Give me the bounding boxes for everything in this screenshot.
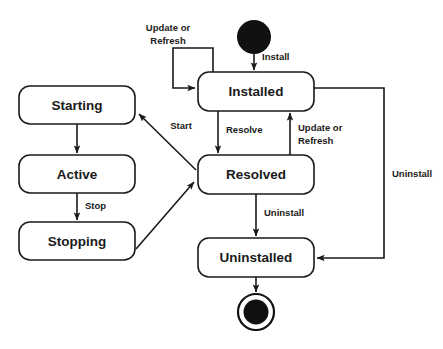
transition-uninstall-from-installed-line xyxy=(314,88,384,258)
state-installed[interactable]: Installed xyxy=(198,72,314,111)
state-active[interactable]: Active xyxy=(19,155,135,193)
transition-resolve: Resolve xyxy=(218,111,262,153)
final-state-node[interactable] xyxy=(238,294,274,330)
transition-uninstall-from-resolved: Uninstall xyxy=(256,194,304,236)
initial-state-node[interactable] xyxy=(237,20,271,54)
state-resolved[interactable]: Resolved xyxy=(198,155,314,194)
state-installed-label: Installed xyxy=(229,84,284,99)
state-stopping[interactable]: Stopping xyxy=(19,222,135,260)
state-starting-label: Starting xyxy=(51,98,102,113)
transition-uninstall-from-resolved-label: Uninstall xyxy=(264,207,304,218)
final-state-inner-dot-icon[interactable] xyxy=(244,300,269,325)
transition-stop: Stop xyxy=(77,193,106,220)
transition-update-or-refresh-label-line1: Update or xyxy=(298,122,343,133)
state-diagram-canvas: Install Update or Refresh Resolve Update… xyxy=(0,0,443,349)
transition-stopping-to-resolved-line xyxy=(136,182,194,249)
state-uninstalled[interactable]: Uninstalled xyxy=(198,238,314,277)
transition-start-label: Start xyxy=(170,120,192,131)
transition-start: Start xyxy=(139,114,196,170)
transition-uninstall-from-installed-label: Uninstall xyxy=(392,168,432,179)
transition-update-or-refresh-label-line2: Refresh xyxy=(298,135,334,146)
transition-installed-self-loop-label-line1: Update or xyxy=(146,22,191,33)
transition-update-or-refresh: Update or Refresh xyxy=(290,113,343,155)
transition-install: Install xyxy=(254,51,289,70)
transition-stop-label: Stop xyxy=(85,200,106,211)
state-uninstalled-label: Uninstalled xyxy=(220,250,293,265)
state-starting[interactable]: Starting xyxy=(19,86,135,124)
initial-state-icon[interactable] xyxy=(237,20,271,54)
transition-install-label: Install xyxy=(262,51,289,62)
state-active-label: Active xyxy=(57,167,98,182)
transition-resolve-label: Resolve xyxy=(226,124,262,135)
state-resolved-label: Resolved xyxy=(226,167,286,182)
state-diagram-svg: Install Update or Refresh Resolve Update… xyxy=(0,0,443,349)
transition-uninstall-from-installed: Uninstall xyxy=(314,88,432,258)
transition-installed-self-loop-label-line2: Refresh xyxy=(150,35,186,46)
state-stopping-label: Stopping xyxy=(48,234,106,249)
transition-stopping-to-resolved xyxy=(136,182,194,249)
